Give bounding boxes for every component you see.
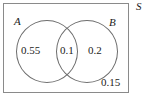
venn-diagram-figure: A B S 0.55 0.1 0.2 0.15	[0, 0, 146, 95]
sample-space-label: S	[136, 1, 142, 12]
region-value-b-only: 0.2	[88, 45, 102, 56]
set-label-a: A	[14, 16, 21, 27]
region-value-outside: 0.15	[101, 77, 120, 88]
set-label-b: B	[109, 17, 116, 28]
region-value-intersection: 0.1	[60, 45, 74, 56]
region-value-a-only: 0.55	[21, 45, 40, 56]
